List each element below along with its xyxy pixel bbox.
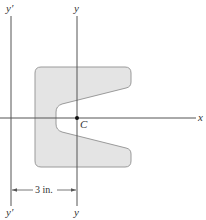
dimension-arrow-right-icon — [71, 188, 76, 191]
diagram-canvas: C y′ y x y′ y 3 in. — [0, 0, 206, 220]
centroid-label: C — [80, 118, 88, 130]
dimension-arrow-left-icon — [12, 188, 17, 191]
y-prime-top-label: y′ — [5, 2, 14, 14]
y-prime-bottom-label: y′ — [5, 206, 14, 218]
y-top-label: y — [73, 2, 79, 14]
dimension-label: 3 in. — [35, 184, 53, 195]
x-label: x — [197, 111, 203, 123]
y-bottom-label: y — [73, 206, 79, 218]
shaded-area — [35, 67, 131, 167]
centroid-dot — [75, 116, 79, 120]
